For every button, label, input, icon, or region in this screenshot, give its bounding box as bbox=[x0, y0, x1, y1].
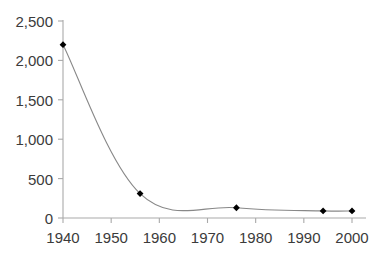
data-point-marker bbox=[349, 208, 356, 215]
series-line-path bbox=[63, 45, 352, 212]
axes-group bbox=[63, 20, 366, 218]
x-axis-tick-label: 1940 bbox=[46, 230, 79, 245]
y-axis-tick-label: 2,000 bbox=[0, 53, 53, 68]
x-axis-tick-label: 1990 bbox=[287, 230, 320, 245]
x-axis-tick-label: 1970 bbox=[191, 230, 224, 245]
data-series-group bbox=[63, 45, 352, 212]
chart-container: 05001,0001,5002,0002,500 194019501960197… bbox=[0, 0, 385, 260]
y-axis-tick-label: 1,500 bbox=[0, 92, 53, 107]
chart-plot-area bbox=[0, 0, 385, 260]
x-axis-ticks bbox=[63, 218, 352, 223]
x-axis-tick-label: 1960 bbox=[143, 230, 176, 245]
data-point-marker bbox=[60, 41, 67, 48]
y-axis-tick-label: 2,500 bbox=[0, 14, 53, 29]
data-point-marker bbox=[233, 204, 240, 211]
y-axis-tick-label: 1,000 bbox=[0, 132, 53, 147]
data-point-markers bbox=[60, 41, 356, 214]
x-axis-tick-label: 1980 bbox=[239, 230, 272, 245]
data-point-marker bbox=[320, 208, 327, 215]
x-axis-tick-label: 2000 bbox=[335, 230, 368, 245]
x-axis-tick-label: 1950 bbox=[94, 230, 127, 245]
y-axis-tick-label: 500 bbox=[0, 171, 53, 186]
y-axis-ticks bbox=[58, 21, 63, 218]
y-axis-tick-label: 0 bbox=[0, 211, 53, 226]
